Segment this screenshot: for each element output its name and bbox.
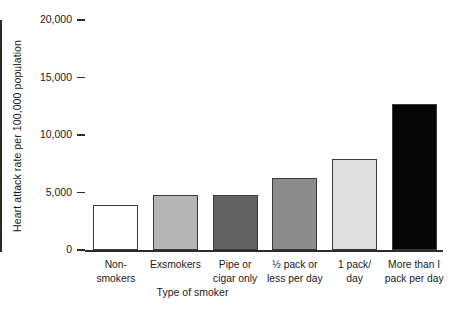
y-axis-tick-label: 0 (0, 244, 72, 255)
x-axis-title-text: Type of smoker (157, 286, 229, 299)
y-axis-tick-label: 10,000 (0, 129, 72, 140)
bar (153, 195, 198, 250)
x-axis-category-label-line: pack per day (378, 272, 450, 286)
y-axis-tick-mark (77, 249, 85, 250)
y-axis-tick-label: 20,000 (0, 14, 72, 25)
y-axis-line (0, 20, 2, 252)
y-axis-tick-mark (77, 19, 85, 20)
x-axis-category-label: More than Ipack per day (378, 258, 450, 285)
x-axis-title: Type of smoker (0, 286, 457, 299)
y-axis-tick-mark (77, 77, 85, 78)
bar (213, 195, 258, 250)
y-axis-tick-label: 15,000 (0, 72, 72, 83)
x-axis-category-label-line: More than I (378, 258, 450, 272)
bar (392, 104, 437, 250)
bar (332, 159, 377, 250)
bar (272, 178, 317, 250)
y-axis-tick-mark (77, 134, 85, 135)
x-axis-line (85, 250, 443, 252)
bar-chart: Heart attack rate per 100,000 population… (0, 0, 457, 317)
x-axis-category-label-line: smokers (80, 272, 152, 286)
y-axis-tick-label: 5,000 (0, 187, 72, 198)
y-axis-tick-mark (77, 192, 85, 193)
bar (93, 205, 138, 250)
